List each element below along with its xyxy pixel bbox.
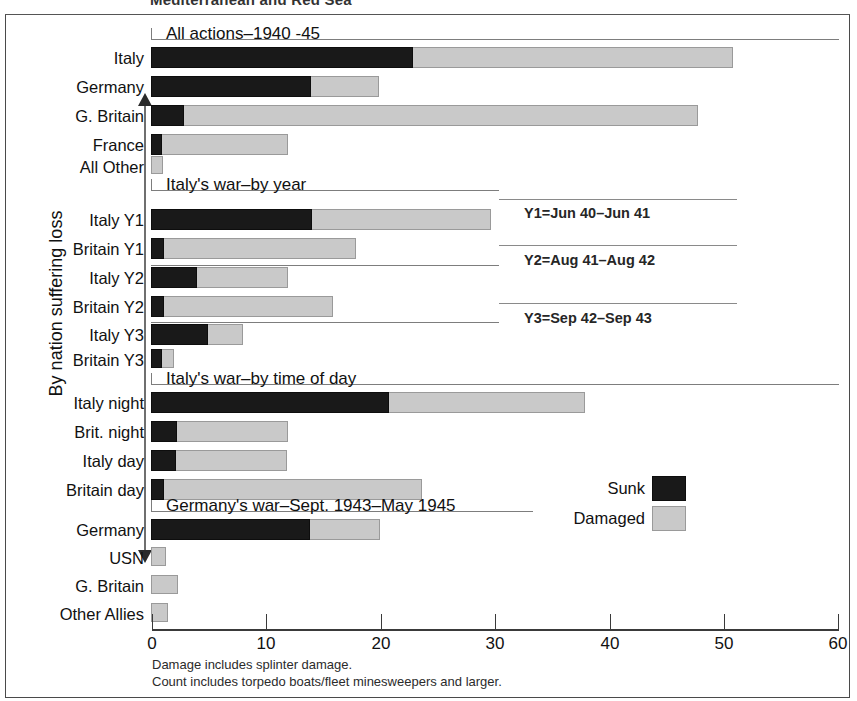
bar-segment-sunk — [151, 296, 164, 317]
x-axis-tick-label: 10 — [257, 634, 276, 654]
cat-label-britain-y2: Britain Y2 — [0, 298, 144, 317]
bar-segment-sunk — [151, 267, 197, 288]
bar-segment-sunk — [151, 479, 164, 500]
bar-segment-damaged — [151, 575, 178, 594]
bar-row[interactable] — [151, 450, 287, 471]
cat-label-italy-night: Italy night — [0, 394, 144, 413]
bar-row[interactable] — [151, 209, 491, 230]
bar-segment-sunk — [151, 519, 310, 540]
chart-plot-area: By nation suffering loss All actions–194… — [0, 0, 857, 701]
x-axis-tick — [610, 614, 611, 630]
cat-label-italy-day: Italy day — [0, 452, 144, 471]
cat-label-italy-y3: Italy Y3 — [0, 326, 144, 345]
bar-row[interactable] — [151, 134, 288, 155]
annotation-y3: Y3=Sep 42–Sep 43 — [524, 310, 652, 326]
footnote-2: Count includes torpedo boats/fleet mines… — [152, 674, 502, 689]
bar-segment-damaged — [151, 603, 168, 622]
x-axis-tick-label: 20 — [372, 634, 391, 654]
bar-segment-sunk — [151, 105, 184, 126]
x-axis-tick-label: 40 — [601, 634, 620, 654]
cat-label-germany-2: Germany — [0, 521, 144, 540]
legend-label-sunk: Sunk — [607, 479, 645, 498]
bar-row[interactable] — [151, 349, 174, 368]
annotation-rule-y2 — [499, 245, 737, 246]
cat-label-germany: Germany — [0, 78, 144, 97]
legend-swatch-sunk — [652, 476, 686, 501]
bar-row[interactable] — [151, 76, 379, 97]
bar-segment-damaged — [151, 134, 288, 155]
cat-label-britain-y3: Britain Y3 — [0, 351, 144, 370]
x-axis-tick — [838, 614, 839, 630]
cat-label-g-britain: G. Britain — [0, 107, 144, 126]
bar-row[interactable] — [151, 603, 168, 622]
cat-label-britain-day: Britain day — [0, 481, 144, 500]
annotation-rule-y3 — [499, 303, 737, 304]
footnote-1: Damage includes splinter damage. — [152, 657, 352, 672]
bar-row[interactable] — [151, 105, 698, 126]
cat-label-britain-y1: Britain Y1 — [0, 240, 144, 259]
annotation-y2: Y2=Aug 41–Aug 42 — [524, 252, 655, 268]
bar-segment-sunk — [151, 209, 312, 230]
bar-row[interactable] — [151, 238, 356, 259]
group-title-2: Italy's war–by year — [166, 175, 306, 195]
bar-row[interactable] — [151, 575, 178, 594]
cat-label-all-other: All Other — [0, 158, 144, 177]
bar-segment-sunk — [151, 134, 162, 155]
bar-row[interactable] — [151, 47, 733, 68]
bar-row[interactable] — [151, 267, 288, 288]
bar-segment-sunk — [151, 76, 311, 97]
group-title-3: Italy's war–by time of day — [166, 369, 356, 389]
bar-segment-sunk — [151, 349, 162, 368]
legend-item-damaged[interactable]: Damaged — [527, 506, 707, 536]
bar-segment-sunk — [151, 324, 208, 345]
bar-segment-damaged — [151, 238, 356, 259]
annotation-y1: Y1=Jun 40–Jun 41 — [524, 205, 650, 221]
bar-row[interactable] — [151, 519, 380, 540]
cat-label-other-allies: Other Allies — [0, 605, 144, 624]
legend-item-sunk[interactable]: Sunk — [527, 476, 707, 506]
bar-row[interactable] — [151, 156, 163, 174]
x-axis-tick — [266, 614, 267, 630]
bar-row[interactable] — [151, 392, 585, 413]
chart-legend: Sunk Damaged — [527, 476, 707, 536]
bar-segment-damaged — [151, 296, 333, 317]
x-axis-tick — [724, 614, 725, 630]
bar-segment-sunk — [151, 392, 389, 413]
cat-label-italy: Italy — [0, 49, 144, 68]
x-axis-tick-label: 50 — [715, 634, 734, 654]
x-axis-tick-label: 60 — [829, 634, 848, 654]
cat-label-italy-y2: Italy Y2 — [0, 269, 144, 288]
bar-segment-sunk — [151, 450, 176, 471]
bar-segment-sunk — [151, 238, 164, 259]
bar-row[interactable] — [151, 421, 288, 442]
x-axis-tick — [495, 614, 496, 630]
bar-segment-damaged — [151, 547, 166, 566]
legend-label-damaged: Damaged — [573, 509, 645, 528]
cat-label-g-britain-2: G. Britain — [0, 577, 144, 596]
cat-label-brit-night: Brit. night — [0, 423, 144, 442]
bar-row[interactable] — [151, 296, 333, 317]
cat-label-italy-y1: Italy Y1 — [0, 211, 144, 230]
bar-row[interactable] — [151, 547, 166, 566]
bar-segment-damaged — [151, 105, 698, 126]
bar-row[interactable] — [151, 324, 243, 345]
cat-label-usn: USN — [0, 549, 144, 568]
group-rule-4 — [151, 322, 499, 323]
annotation-rule-y1 — [499, 199, 737, 200]
bar-segment-sunk — [151, 47, 413, 68]
bar-segment-damaged — [151, 156, 163, 174]
x-axis-tick-label: 30 — [486, 634, 505, 654]
legend-swatch-damaged — [652, 506, 686, 531]
x-axis-tick-label: 0 — [147, 634, 156, 654]
y-direction-arrow-shaft — [144, 104, 146, 552]
x-axis-tick — [152, 614, 153, 630]
x-axis-tick — [381, 614, 382, 630]
group-rule-3 — [151, 265, 499, 266]
bar-segment-sunk — [151, 421, 177, 442]
group-title-1: All actions–1940 -45 — [166, 24, 320, 44]
group-title-4: Germany's war–Sept. 1943–May 1945 — [166, 496, 456, 516]
cat-label-france: France — [0, 136, 144, 155]
